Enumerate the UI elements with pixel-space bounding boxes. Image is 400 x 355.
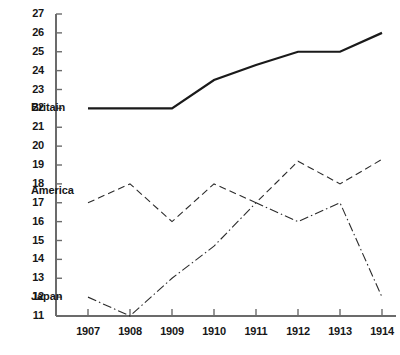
y-tick-label-26: 26 [20, 26, 44, 38]
series-lines [88, 33, 382, 316]
series-line-america [88, 159, 382, 221]
y-tick-label-27: 27 [20, 7, 44, 19]
x-tick-marks [88, 309, 382, 316]
y-tick-label-20: 20 [20, 139, 44, 151]
series-label-japan: Japan [31, 290, 62, 302]
y-tick-label-16: 16 [20, 215, 44, 227]
y-tick-label-21: 21 [20, 120, 44, 132]
y-tick-label-14: 14 [20, 252, 44, 264]
y-tick-label-23: 23 [20, 83, 44, 95]
x-tick-label-1908: 1908 [110, 325, 150, 337]
x-tick-label-1909: 1909 [152, 325, 192, 337]
y-tick-label-19: 19 [20, 158, 44, 170]
x-tick-label-1911: 1911 [236, 325, 276, 337]
series-label-britain: Britain [31, 101, 65, 113]
y-tick-label-11: 11 [20, 309, 44, 321]
x-tick-label-1910: 1910 [194, 325, 234, 337]
y-tick-label-25: 25 [20, 45, 44, 57]
series-line-japan [88, 203, 382, 316]
y-tick-label-17: 17 [20, 196, 44, 208]
x-tick-label-1912: 1912 [278, 325, 318, 337]
y-tick-label-15: 15 [20, 234, 44, 246]
series-line-britain [88, 33, 382, 109]
series-label-america: America [31, 184, 74, 196]
y-tick-label-13: 13 [20, 271, 44, 283]
x-tick-label-1913: 1913 [320, 325, 360, 337]
y-tick-label-24: 24 [20, 64, 44, 76]
x-tick-label-1907: 1907 [68, 325, 108, 337]
x-tick-label-1914: 1914 [362, 325, 400, 337]
line-chart: 1112131415161718192021222324252627 19071… [0, 0, 400, 355]
